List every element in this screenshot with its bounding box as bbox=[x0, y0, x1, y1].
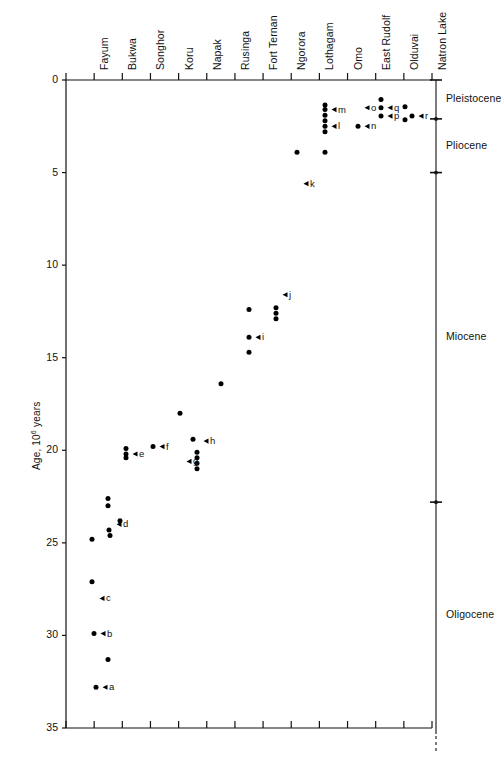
data-point bbox=[403, 117, 408, 122]
data-point bbox=[403, 104, 408, 109]
epoch-label-oligocene: Oligocene bbox=[446, 608, 494, 620]
annotation-arrow-o bbox=[365, 105, 370, 110]
data-point bbox=[124, 455, 129, 460]
point-label-o: o bbox=[371, 102, 376, 113]
site-label-napak: Napak bbox=[211, 39, 223, 70]
point-label-j: j bbox=[289, 289, 291, 300]
data-point bbox=[323, 102, 328, 107]
data-point bbox=[274, 305, 279, 310]
y-axis-title: Age, 106 years bbox=[30, 402, 42, 470]
data-point bbox=[107, 527, 112, 532]
data-point bbox=[90, 579, 95, 584]
y-tick-label-25: 25 bbox=[26, 536, 58, 548]
data-point bbox=[323, 124, 328, 129]
y-tick-label-0: 0 bbox=[26, 73, 58, 85]
point-label-f: f bbox=[166, 441, 169, 452]
data-point bbox=[247, 307, 252, 312]
annotation-arrow-h bbox=[204, 438, 209, 443]
site-label-koru: Koru bbox=[183, 47, 195, 70]
annotation-arrows-group bbox=[100, 105, 424, 690]
y-tick-label-30: 30 bbox=[26, 628, 58, 640]
data-point bbox=[94, 685, 99, 690]
axes-group bbox=[62, 80, 432, 728]
epoch-boundary-dot bbox=[434, 171, 438, 175]
point-label-k: k bbox=[310, 178, 315, 189]
annotation-arrow-r bbox=[419, 114, 424, 119]
site-label-omo: Omo bbox=[352, 47, 364, 70]
data-point bbox=[410, 114, 415, 119]
data-point bbox=[247, 350, 252, 355]
point-label-r: r bbox=[425, 110, 428, 121]
point-label-e: e bbox=[139, 448, 144, 459]
data-point bbox=[106, 496, 111, 501]
site-label-fort-ternan: Fort Ternan bbox=[267, 15, 279, 70]
data-point bbox=[323, 129, 328, 134]
epoch-label-pliocene: Pliocene bbox=[446, 139, 487, 151]
epoch-scale-group bbox=[430, 80, 442, 754]
point-label-g: g bbox=[193, 455, 198, 466]
data-point bbox=[379, 105, 384, 110]
data-point bbox=[124, 446, 129, 451]
epoch-label-pleistocene: Pleistocene bbox=[446, 92, 501, 104]
point-label-n: n bbox=[371, 120, 376, 131]
data-point bbox=[151, 444, 156, 449]
data-point bbox=[108, 533, 113, 538]
data-point bbox=[92, 631, 97, 636]
site-label-songhor: Songhor bbox=[154, 30, 166, 70]
data-point bbox=[274, 316, 279, 321]
point-label-l: l bbox=[338, 120, 340, 131]
data-point bbox=[323, 107, 328, 112]
y-tick-label-35: 35 bbox=[26, 721, 58, 733]
data-point bbox=[295, 150, 300, 155]
annotation-arrow-m bbox=[332, 107, 337, 112]
data-point bbox=[356, 124, 361, 129]
annotation-arrow-e bbox=[133, 451, 138, 456]
annotation-arrow-q bbox=[388, 105, 393, 110]
site-label-bukwa: Bukwa bbox=[126, 38, 138, 70]
site-label-lothagam: Lothagam bbox=[323, 22, 335, 70]
data-point bbox=[379, 97, 384, 102]
epoch-boundary-dot bbox=[434, 117, 438, 121]
data-point bbox=[195, 450, 200, 455]
data-point bbox=[106, 503, 111, 508]
point-label-h: h bbox=[210, 435, 215, 446]
point-label-d: d bbox=[123, 518, 128, 529]
annotation-arrow-n bbox=[365, 124, 370, 129]
y-tick-label-15: 15 bbox=[26, 351, 58, 363]
data-point bbox=[247, 335, 252, 340]
annotation-arrow-l bbox=[332, 124, 337, 129]
point-label-c: c bbox=[106, 592, 111, 603]
annotation-arrow-j bbox=[283, 292, 288, 297]
annotation-arrow-g bbox=[187, 459, 192, 464]
data-point bbox=[219, 381, 224, 386]
data-point bbox=[379, 114, 384, 119]
annotation-arrow-k bbox=[304, 181, 309, 186]
site-label-natron-lake: Natron Lake bbox=[436, 12, 448, 70]
point-label-i: i bbox=[262, 331, 264, 342]
age-site-scatter-chart: 05101520253035 Age, 106 years FayumBukwa… bbox=[0, 0, 501, 764]
data-point bbox=[191, 437, 196, 442]
site-tick-group bbox=[66, 73, 432, 728]
data-point bbox=[323, 118, 328, 123]
data-point bbox=[274, 311, 279, 316]
annotation-arrow-b bbox=[101, 631, 106, 636]
annotation-arrow-f bbox=[160, 444, 165, 449]
data-point bbox=[118, 518, 123, 523]
y-tick-label-5: 5 bbox=[26, 166, 58, 178]
data-point bbox=[178, 411, 183, 416]
annotation-arrow-c bbox=[100, 596, 105, 601]
data-point bbox=[323, 113, 328, 118]
data-point bbox=[106, 657, 111, 662]
site-label-east-rudolf: East Rudolf bbox=[380, 15, 392, 70]
data-point bbox=[323, 150, 328, 155]
point-label-q: q bbox=[394, 102, 399, 113]
site-label-fayum: Fayum bbox=[98, 37, 110, 70]
annotation-arrow-i bbox=[256, 335, 261, 340]
point-label-m: m bbox=[338, 104, 346, 115]
epoch-label-miocene: Miocene bbox=[446, 330, 486, 342]
annotation-arrow-p bbox=[388, 114, 393, 119]
annotation-arrow-a bbox=[103, 685, 108, 690]
data-points-group bbox=[90, 97, 415, 690]
site-label-olduvai: Olduvai bbox=[408, 34, 420, 70]
data-point bbox=[90, 537, 95, 542]
